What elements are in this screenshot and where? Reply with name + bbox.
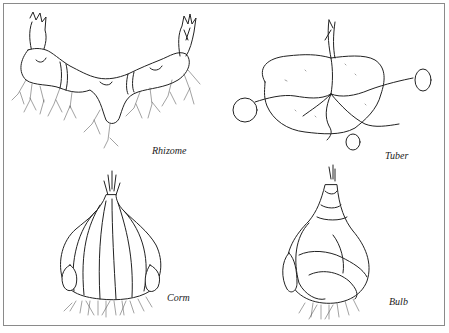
rhizome-illustration [0,0,225,165]
rhizome-panel: Rhizome [0,0,225,165]
tuber-illustration [225,0,449,165]
tuber-panel: Tuber [225,0,449,165]
corm-label: Corm [167,292,190,303]
bulb-illustration [225,165,449,326]
corm-panel: Corm [0,165,225,326]
bulb-panel: Bulb [225,165,449,326]
rhizome-label: Rhizome [152,145,186,156]
tuber-label: Tuber [385,150,408,161]
bulb-label: Bulb [389,296,408,307]
corm-illustration [0,165,225,326]
